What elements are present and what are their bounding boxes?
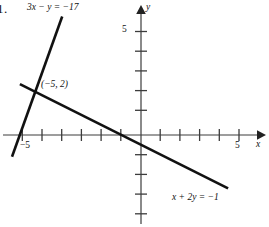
x-tick-label-negative-five: −5: [20, 141, 30, 151]
x-tick-label-positive-five: 5: [235, 141, 240, 151]
line-x-plus-2y: [20, 84, 228, 188]
equation-label-line-2: x + 2y = −1: [172, 193, 219, 203]
problem-number: 1.: [0, 2, 8, 15]
y-axis-arrowhead-icon: [136, 5, 146, 14]
intersection-point-label: (−5, 2): [41, 80, 68, 90]
equation-label-line-1: 3x − y = −17: [27, 3, 78, 13]
x-axis-label: x: [256, 140, 260, 150]
y-axis: [135, 5, 147, 224]
x-axis: [3, 129, 266, 141]
y-tick-label-positive-five: 5: [122, 25, 127, 35]
y-axis-label: y: [146, 3, 150, 13]
graph-figure: 1. 3x − y = −17 x + 2y = −1 (−5, 2) x y …: [0, 0, 269, 227]
coordinate-plane-svg: [0, 0, 269, 227]
